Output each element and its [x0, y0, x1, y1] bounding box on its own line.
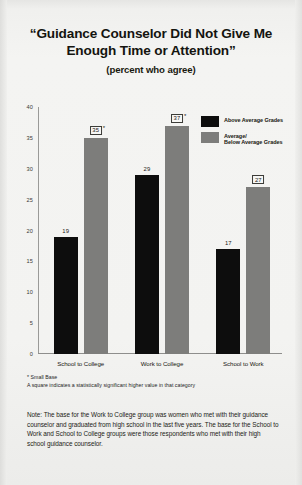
footnote-square-meaning: A square indicates a statistically signi…: [27, 382, 282, 390]
y-axis-tick-label: 40: [26, 104, 33, 110]
y-axis-tick-label: 5: [30, 320, 33, 326]
bar-value-label: 17: [225, 240, 232, 246]
bar-average-below: [246, 187, 270, 354]
bar-group: 1727: [38, 107, 282, 354]
y-axis-tick-label: 30: [26, 166, 33, 172]
chart-title-line-2: Enough Time or Attention”: [66, 43, 235, 58]
y-axis-tick-label: 25: [26, 197, 33, 203]
chart-note: Note: The base for the Work to College g…: [27, 410, 279, 448]
page-edge-top: [0, 0, 302, 9]
y-axis-tick-label: 15: [26, 258, 33, 264]
bar-value-label: 27: [252, 175, 264, 184]
y-axis-tick-label: 10: [26, 289, 33, 295]
footnote-small-base: * Small Base: [27, 374, 282, 382]
footnotes: * Small Base A square indicates a statis…: [27, 374, 282, 389]
x-axis-category-label: School to Work: [223, 360, 264, 367]
page-edge-right: [295, 0, 302, 485]
plot-inner: 1935*School to College2937*Work to Colle…: [38, 107, 282, 354]
page-edge-left: [0, 0, 7, 485]
chart-title-block: “Guidance Counselor Did Not Give Me Enou…: [14, 26, 288, 75]
x-axis-category-label: Work to College: [141, 360, 184, 367]
chart-subtitle: (percent who agree): [14, 64, 288, 75]
y-axis-tick-label: 35: [26, 135, 33, 141]
y-axis-tick-label: 20: [26, 228, 33, 234]
bar-above-average: [216, 249, 240, 354]
plot-area: 1935*School to College2937*Work to Colle…: [38, 107, 282, 354]
y-axis-tick-label: 0: [30, 351, 33, 357]
x-axis-category-label: School to College: [57, 360, 104, 367]
chart-title-line-1: “Guidance Counselor Did Not Give Me: [30, 26, 273, 41]
chart-title: “Guidance Counselor Did Not Give Me Enou…: [14, 26, 288, 59]
chart-page: “Guidance Counselor Did Not Give Me Enou…: [0, 0, 302, 485]
